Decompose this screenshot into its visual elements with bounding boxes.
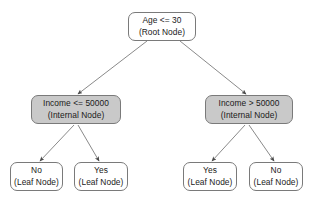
node-leaf-right-2-label: No [271, 165, 282, 177]
node-leaf-right-1-label: Yes [203, 165, 217, 177]
decision-tree-diagram: Age <= 30 (Root Node) Income <= 50000 (I… [0, 0, 322, 198]
node-root-role: (Root Node) [139, 27, 185, 39]
node-leaf-left-2[interactable]: Yes (Leaf Node) [74, 162, 128, 191]
edge-right-internal-to-leaf-2 [249, 125, 274, 161]
node-root-condition: Age <= 30 [142, 15, 181, 27]
node-internal-right-role: (Internal Node) [221, 110, 278, 122]
edge-right-internal-to-leaf-1 [212, 125, 245, 161]
node-internal-right-condition: Income > 50000 [219, 98, 280, 110]
node-leaf-left-2-label: Yes [94, 165, 108, 177]
node-leaf-right-2[interactable]: No (Leaf Node) [249, 162, 303, 191]
node-root[interactable]: Age <= 30 (Root Node) [128, 12, 196, 41]
edge-root-to-left-internal [78, 41, 147, 94]
edge-left-internal-to-leaf-2 [78, 125, 99, 161]
node-internal-left[interactable]: Income <= 50000 (Internal Node) [31, 95, 121, 124]
node-leaf-left-1[interactable]: No (Leaf Node) [10, 162, 63, 191]
edge-left-internal-to-leaf-1 [40, 125, 74, 161]
node-leaf-left-2-role: (Leaf Node) [79, 177, 124, 189]
node-leaf-left-1-role: (Leaf Node) [14, 177, 59, 189]
edge-root-to-right-internal [180, 41, 246, 94]
node-leaf-right-1-role: (Leaf Node) [188, 177, 233, 189]
node-leaf-right-2-role: (Leaf Node) [254, 177, 299, 189]
node-internal-right[interactable]: Income > 50000 (Internal Node) [205, 95, 293, 124]
node-leaf-right-1[interactable]: Yes (Leaf Node) [183, 162, 237, 191]
node-internal-left-condition: Income <= 50000 [43, 98, 109, 110]
node-internal-left-role: (Internal Node) [48, 110, 105, 122]
node-leaf-left-1-label: No [31, 165, 42, 177]
